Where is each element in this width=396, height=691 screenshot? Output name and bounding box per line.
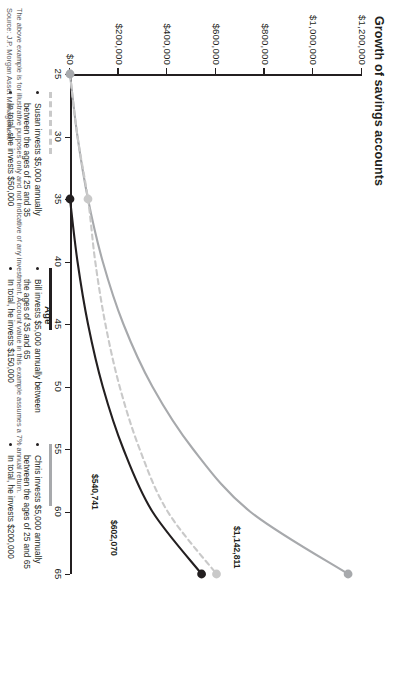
y-tick-label-0: $0 (65, 54, 76, 65)
x-tick-label-8: 65 (53, 568, 64, 579)
footer-source: Source: J.P. Morgan Asset Management (4, 8, 14, 684)
bill-endpoint-marker (197, 570, 206, 579)
bill-swatch-icon (49, 268, 52, 330)
bill-marker (66, 195, 75, 204)
x-tick-label-0: 25 (53, 68, 64, 79)
x-tick-label-6: 55 (53, 443, 64, 454)
x-tick-label-2: 35 (53, 193, 64, 204)
bill-bullet-0: Bill invests $5,000 annually between the… (21, 279, 43, 418)
susan-end-label: $602,070 (109, 520, 119, 556)
footer-disclaimer: The above example is for illustrative pu… (14, 8, 24, 684)
y-tick-label-2: $400,000 (162, 23, 173, 65)
susan-endpoint-marker (212, 570, 221, 579)
chris-endpoint-marker (344, 570, 353, 579)
chris-bullet-0: Chris invests $5,000 annually between th… (21, 455, 43, 594)
y-tick-label-5: $1,000,000 (308, 15, 319, 65)
series-curves (70, 74, 362, 574)
savings-growth-figure: Growth of savings accounts $0 $200,000 $… (0, 0, 396, 691)
x-tick-label-4: 45 (53, 318, 64, 329)
chris-end-label: $1,142,811 (232, 526, 242, 569)
chris-line (70, 74, 348, 574)
chris-swatch-icon (49, 444, 52, 506)
bill-end-label: $540,741 (90, 474, 100, 510)
chart-title: Growth of savings accounts (372, 16, 386, 186)
y-tick-label-1: $200,000 (113, 23, 124, 65)
x-tick-8 (65, 574, 70, 575)
x-tick-label-7: 60 (53, 506, 64, 517)
bill-line (70, 199, 202, 574)
rotated-figure-wrapper: Growth of savings accounts $0 $200,000 $… (0, 0, 396, 691)
y-tick-label-6: $1,200,000 (357, 15, 368, 65)
series-markers (66, 70, 353, 579)
x-tick-label-3: 40 (53, 256, 64, 267)
plot-area: $0 $200,000 $400,000 $600,000 $800,000 $… (70, 74, 362, 574)
susan-swatch-icon (49, 92, 52, 154)
footer-block: The above example is for illustrative pu… (4, 8, 24, 684)
y-tick-label-3: $600,000 (211, 23, 222, 65)
susan-marker (84, 195, 93, 204)
x-tick-label-1: 30 (53, 131, 64, 142)
x-tick-label-5: 50 (53, 381, 64, 392)
y-tick-label-4: $800,000 (259, 23, 270, 65)
susan-bullet-0: Susan invests $5,000 annually between th… (21, 103, 43, 242)
chris-marker (66, 70, 75, 79)
